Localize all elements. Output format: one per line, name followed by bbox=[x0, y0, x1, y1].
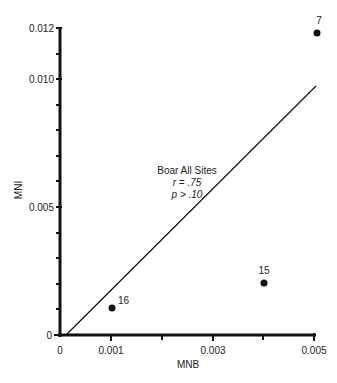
x-tick-label: 0.003 bbox=[200, 345, 225, 356]
annotation-p: p > .10 bbox=[171, 189, 203, 200]
data-point bbox=[261, 280, 268, 287]
y-tick-label: 0.005 bbox=[29, 202, 54, 213]
point-label: 15 bbox=[258, 265, 270, 276]
regression-line bbox=[66, 86, 316, 335]
x-tick-label: 0 bbox=[57, 345, 63, 356]
annotation-title: Boar All Sites bbox=[157, 165, 216, 176]
data-point bbox=[314, 30, 321, 37]
y-tick-label: 0 bbox=[46, 330, 52, 341]
data-point bbox=[109, 305, 116, 312]
annotation-r: r = .75 bbox=[173, 177, 202, 188]
point-label: 7 bbox=[316, 15, 322, 26]
x-tick-label: 0.001 bbox=[98, 345, 123, 356]
scatter-chart: 0.012 0.010 0.005 0 0 0.001 0.003 0.005 … bbox=[0, 0, 337, 383]
y-tick-label: 0.010 bbox=[29, 74, 54, 85]
point-label: 16 bbox=[118, 295, 130, 306]
y-axis-label: MNI bbox=[13, 181, 24, 199]
x-axis-label: MNB bbox=[177, 359, 200, 370]
y-tick-label: 0.012 bbox=[29, 23, 54, 34]
x-tick-label: 0.005 bbox=[301, 345, 326, 356]
